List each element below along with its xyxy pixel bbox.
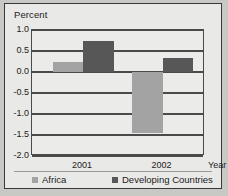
y-tick-label: -2.0 xyxy=(5,150,29,160)
y-tick-label: 0.0 xyxy=(5,66,29,76)
legend-swatch-icon xyxy=(112,177,118,183)
bar-africa-2001 xyxy=(53,62,84,72)
bar-developing-countries-2002 xyxy=(163,58,194,72)
y-tick-label: -1.0 xyxy=(5,108,29,118)
gridline xyxy=(32,134,203,135)
x-tick-label-2002: 2002 xyxy=(142,160,182,170)
gridline xyxy=(32,113,203,114)
gridline xyxy=(32,50,203,51)
x-tick-label-2001: 2001 xyxy=(62,160,102,170)
y-axis-title: Percent xyxy=(14,9,47,20)
y-tick-label: -1.5 xyxy=(5,129,29,139)
legend-swatch-icon xyxy=(32,177,38,183)
bar-developing-countries-2001 xyxy=(83,41,114,73)
y-axis-tick-labels: 1.00.50.0-0.5-1.0-1.5-2.0 xyxy=(5,29,29,155)
y-tick-label: -0.5 xyxy=(5,87,29,97)
gridline xyxy=(32,29,203,30)
y-tick-label: 1.0 xyxy=(5,24,29,34)
plot-area xyxy=(31,29,204,155)
gridline xyxy=(32,155,203,156)
gridline xyxy=(32,92,203,93)
legend-label: Developing Countries xyxy=(122,174,213,185)
x-axis-title: Year xyxy=(208,160,226,170)
chart-legend: AfricaDeveloping Countries xyxy=(14,171,212,187)
chart-figure: Percent 1.00.50.0-0.5-1.0-1.5-2.0 200120… xyxy=(4,3,222,189)
legend-label: Africa xyxy=(42,174,66,185)
legend-entry-africa[interactable]: Africa xyxy=(32,174,66,185)
y-tick-label: 0.5 xyxy=(5,45,29,55)
legend-entry-developing-countries[interactable]: Developing Countries xyxy=(112,174,213,185)
bar-africa-2002 xyxy=(132,72,163,133)
